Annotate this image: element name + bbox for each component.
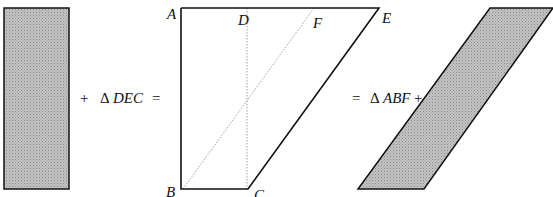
equals-sign-1: = [152,90,160,106]
triangle-abf-label: ABF [382,90,411,106]
vertex-a-label: A [166,6,177,22]
triangle-dec-label: DEC [112,90,144,106]
equals-sign-2: = [352,90,360,106]
outline-abce [181,8,379,189]
delta-symbol-1: Δ [100,90,110,106]
delta-symbol-2: Δ [370,90,380,106]
dotted-line-bf [183,8,314,189]
shaded-rectangle [4,8,69,189]
vertex-d-label: D [237,12,249,28]
parallelogram-abce [181,8,379,189]
plus-sign-1: + [80,90,88,106]
area-diagram: + Δ DEC = A D F E B C = Δ ABF + [0,0,553,197]
vertex-c-label: C [254,187,265,197]
vertex-f-label: F [312,15,323,31]
vertex-b-label: B [166,184,175,197]
vertex-e-label: E [381,10,391,26]
